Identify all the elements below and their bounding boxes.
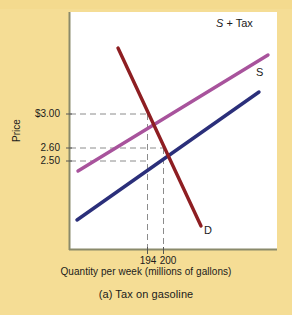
- curve-label-supply: S: [256, 66, 263, 78]
- figure-root: Price $3.00 2.60 2.50 194 200 Quantity p…: [0, 0, 292, 315]
- plot-area-background: [70, 12, 277, 250]
- x-tick-label-200: 200: [148, 255, 188, 266]
- curve-label-supply-plus-tax: S + Tax: [216, 17, 253, 29]
- curve-label-demand: D: [204, 224, 212, 236]
- x-axis-title: Quantity per week (millions of gallons): [0, 266, 292, 277]
- y-tick-label-300: $3.00: [16, 108, 60, 119]
- y-tick-label-250: 2.50: [16, 155, 60, 166]
- y-tick-label-260: 2.60: [16, 142, 60, 153]
- figure-caption: (a) Tax on gasoline: [0, 288, 292, 300]
